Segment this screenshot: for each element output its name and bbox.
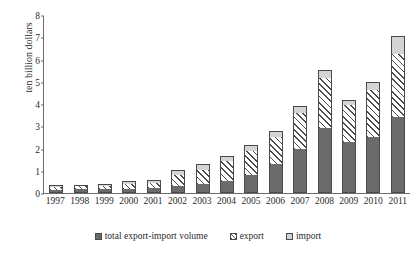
bar-column[interactable] (312, 16, 336, 193)
chart-legend: total export-import volumeexportimport (0, 231, 416, 241)
stacked-bar[interactable] (244, 145, 258, 193)
bar-segment-import (269, 131, 283, 138)
x-axis-tick-label: 2011 (386, 196, 410, 206)
bar-column[interactable] (239, 16, 263, 193)
chart-container: ten billion dollars 012345678 1997199819… (0, 0, 416, 255)
bar-segment-total (220, 181, 234, 193)
bar-segment-export (318, 78, 332, 128)
legend-item-label: import (296, 231, 321, 241)
bar-segment-total (171, 186, 185, 193)
bar-column[interactable] (44, 16, 68, 193)
bar-segment-total (49, 190, 63, 193)
plot-area: 012345678 (43, 16, 410, 194)
bar-segment-total (391, 117, 405, 193)
y-axis-tick-label: 2 (35, 145, 40, 155)
bar-column[interactable] (93, 16, 117, 193)
legend-item[interactable]: total export-import volume (95, 231, 208, 241)
square-dark-icon (95, 233, 102, 240)
legend-item-label: export (240, 231, 264, 241)
bar-column[interactable] (386, 16, 410, 193)
bar-segment-total (269, 164, 283, 193)
y-axis-tick-label: 6 (35, 56, 40, 66)
bar-series-group (44, 16, 410, 193)
x-axis-tick-label: 2009 (337, 196, 361, 206)
x-axis-ticks: 1997199819992000200120022003200420052006… (43, 196, 410, 206)
stacked-bar[interactable] (98, 184, 112, 193)
bar-column[interactable] (215, 16, 239, 193)
stacked-bar[interactable] (293, 106, 307, 193)
bar-segment-export (171, 175, 185, 186)
bar-segment-export (244, 151, 258, 175)
y-axis-tick-label: 5 (35, 78, 40, 88)
bar-segment-total (196, 184, 210, 193)
stacked-bar[interactable] (391, 36, 405, 193)
y-axis-tick-label: 7 (35, 33, 40, 43)
y-axis-tick-label: 3 (35, 122, 40, 132)
y-axis-tick-label: 0 (35, 189, 40, 199)
bar-column[interactable] (190, 16, 214, 193)
bar-column[interactable] (142, 16, 166, 193)
stacked-bar[interactable] (196, 164, 210, 193)
y-axis-title: ten billion dollars (23, 0, 34, 138)
bar-segment-export (391, 54, 405, 117)
bar-segment-total (147, 188, 161, 193)
legend-item[interactable]: export (230, 231, 264, 241)
bar-segment-export (366, 90, 380, 138)
bar-segment-total (98, 189, 112, 193)
bar-segment-import (366, 82, 380, 90)
y-axis-tick-label: 4 (35, 100, 40, 110)
x-axis-tick-label: 2007 (288, 196, 312, 206)
stacked-bar[interactable] (49, 185, 63, 193)
bar-column[interactable] (264, 16, 288, 193)
bar-segment-total (342, 142, 356, 193)
bar-column[interactable] (68, 16, 92, 193)
y-axis-tick-label: 8 (35, 11, 40, 21)
x-axis-tick-label: 2003 (190, 196, 214, 206)
bar-column[interactable] (337, 16, 361, 193)
bar-segment-import (318, 70, 332, 79)
x-axis-tick-label: 1997 (43, 196, 67, 206)
bar-segment-export (293, 113, 307, 149)
square-light-icon (286, 233, 293, 240)
bar-segment-total (293, 149, 307, 194)
bar-segment-export (342, 105, 356, 142)
bar-column[interactable] (288, 16, 312, 193)
bar-column[interactable] (166, 16, 190, 193)
stacked-bar[interactable] (220, 156, 234, 193)
x-axis-tick-label: 2000 (116, 196, 140, 206)
x-axis-tick-label: 2006 (263, 196, 287, 206)
x-axis-tick-label: 2005 (239, 196, 263, 206)
bar-segment-export (220, 161, 234, 181)
bar-segment-export (269, 137, 283, 164)
bar-segment-import (293, 106, 307, 113)
bar-column[interactable] (117, 16, 141, 193)
square-hatched-icon (230, 233, 237, 240)
legend-item[interactable]: import (286, 231, 321, 241)
x-axis-tick-label: 2004 (214, 196, 238, 206)
stacked-bar[interactable] (318, 70, 332, 193)
y-axis-tick-label: 1 (35, 167, 40, 177)
stacked-bar[interactable] (269, 131, 283, 193)
bar-segment-export (196, 170, 210, 184)
bar-segment-total (122, 189, 136, 193)
bar-segment-total (244, 175, 258, 193)
x-axis-tick-label: 1998 (67, 196, 91, 206)
x-axis-tick-label: 1999 (92, 196, 116, 206)
legend-item-label: total export-import volume (105, 231, 208, 241)
bar-segment-import (391, 36, 405, 54)
bar-segment-total (74, 189, 88, 193)
bar-column[interactable] (361, 16, 385, 193)
stacked-bar[interactable] (171, 170, 185, 193)
bar-segment-total (318, 128, 332, 193)
x-axis-tick-label: 2002 (165, 196, 189, 206)
bar-segment-total (366, 137, 380, 193)
x-axis-tick-label: 2008 (312, 196, 336, 206)
stacked-bar[interactable] (74, 185, 88, 193)
stacked-bar[interactable] (342, 100, 356, 193)
stacked-bar[interactable] (122, 181, 136, 193)
x-axis-tick-label: 2001 (141, 196, 165, 206)
x-axis-tick-label: 2010 (361, 196, 385, 206)
stacked-bar[interactable] (366, 82, 380, 193)
y-axis-tick-mark (41, 194, 44, 195)
stacked-bar[interactable] (147, 180, 161, 193)
